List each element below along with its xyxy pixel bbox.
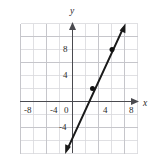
x-tick-label-neg4: -4	[50, 106, 58, 115]
graph-canvas	[0, 0, 159, 165]
x-axis	[20, 98, 139, 105]
x-tick-label-4: 4	[103, 106, 108, 115]
x-tick-label-8: 8	[129, 106, 134, 115]
x-tick-label-neg8: -8	[24, 106, 32, 115]
grid-minor-lines	[21, 24, 138, 154]
coordinate-plane-figure: -8 -4 4 8 0 8 4 -4 x y	[0, 0, 159, 165]
data-point	[90, 86, 95, 91]
y-tick-label-4: 4	[63, 71, 68, 80]
y-tick-label-neg4: -4	[59, 123, 67, 132]
data-point	[110, 47, 115, 52]
origin-label: 0	[64, 106, 69, 115]
y-tick-label-8: 8	[63, 45, 68, 54]
y-axis-label: y	[70, 7, 74, 17]
x-axis-label: x	[143, 99, 147, 109]
